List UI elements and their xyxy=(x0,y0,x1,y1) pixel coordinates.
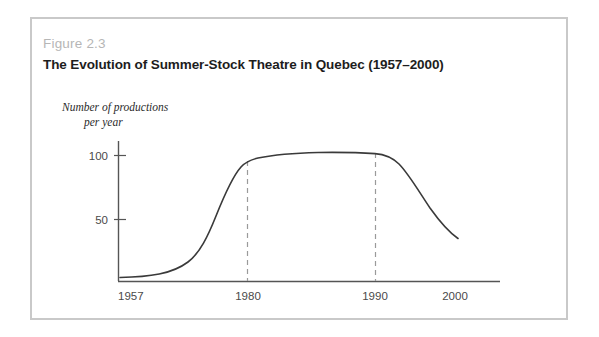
chart-plot-area: 100 50 1957 1980 1990 2000 xyxy=(0,0,599,337)
x-tick-label-1980: 1980 xyxy=(235,290,261,302)
x-tick-label-1957: 1957 xyxy=(118,290,144,302)
x-tick-label-1990: 1990 xyxy=(362,290,388,302)
x-tick-label-2000: 2000 xyxy=(442,290,468,302)
data-series-line xyxy=(120,152,458,277)
y-tick-label-100: 100 xyxy=(89,150,108,162)
y-tick-label-50: 50 xyxy=(95,214,108,226)
figure-container: Figure 2.3 The Evolution of Summer-Stock… xyxy=(0,0,599,337)
